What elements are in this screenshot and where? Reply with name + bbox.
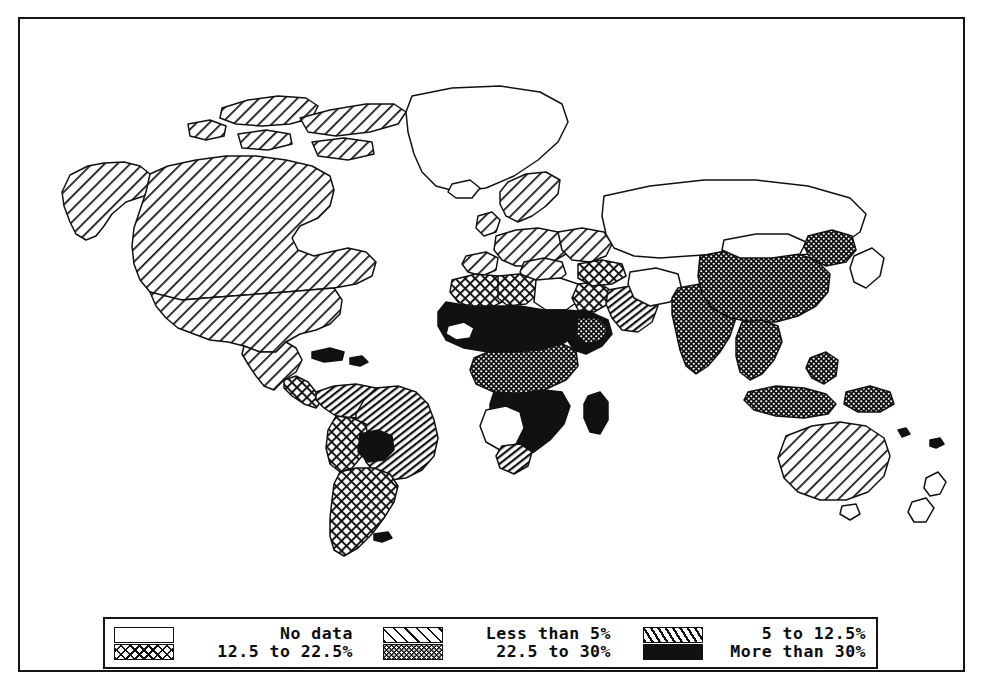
- legend-label-12-5-to-22-5: 12.5 to 22.5%: [174, 643, 353, 661]
- legend-labels-2: Less than 5% 22.5 to 30%: [443, 625, 621, 661]
- legend-swatch-5-to-12-5: [643, 627, 703, 643]
- legend-label-5-to-12-5: 5 to 12.5%: [703, 625, 866, 643]
- legend-swatch-22-5-to-30: [383, 644, 443, 660]
- legend-label-less-than-5: Less than 5%: [443, 625, 611, 643]
- legend-label-no-data: No data: [174, 625, 353, 643]
- legend-swatch-stack-1: [114, 627, 174, 660]
- legend-labels-3: 5 to 12.5% More than 30%: [703, 625, 876, 661]
- legend-label-22-5-to-30: 22.5 to 30%: [443, 643, 611, 661]
- figure-frame: [18, 17, 965, 672]
- legend-swatch-12-5-to-22-5: [114, 644, 174, 660]
- legend-column-3: 5 to 12.5% More than 30%: [621, 619, 876, 667]
- legend-swatch-stack-2: [383, 627, 443, 660]
- legend-label-more-than-30: More than 30%: [703, 643, 866, 661]
- legend-column-2: Less than 5% 22.5 to 30%: [363, 619, 621, 667]
- map-figure: No data 12.5 to 22.5% Less than 5% 22.5 …: [0, 0, 982, 687]
- legend-labels-1: No data 12.5 to 22.5%: [174, 625, 363, 661]
- legend: No data 12.5 to 22.5% Less than 5% 22.5 …: [103, 617, 878, 669]
- legend-swatch-less-than-5: [383, 627, 443, 643]
- legend-swatch-stack-3: [643, 627, 703, 660]
- legend-swatch-no-data: [114, 627, 174, 643]
- legend-swatch-more-than-30: [643, 644, 703, 660]
- legend-column-1: No data 12.5 to 22.5%: [105, 619, 363, 667]
